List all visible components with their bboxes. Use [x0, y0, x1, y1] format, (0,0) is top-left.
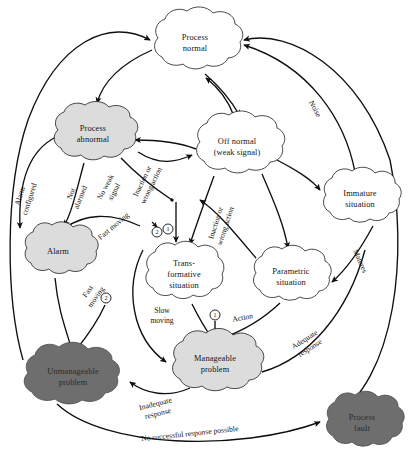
label-transformative-line2: formative: [167, 270, 201, 279]
edge-label-slow-moving-l1: Slow: [154, 306, 170, 315]
label-process-fault-line1: Process: [349, 413, 375, 422]
label-manageable-line1: Manageable: [194, 354, 236, 363]
node-alarm[interactable]: Alarm: [25, 222, 98, 274]
edge-label-inaction-wrong-action-2: Inaction or wrong action: [205, 202, 235, 246]
edge-alarm-to-unmanageable: [55, 278, 72, 350]
label-process-normal-line1: Process: [182, 33, 208, 42]
edge-outer-right-to-normal: [244, 38, 398, 420]
label-transformative-line1: Trans-: [173, 259, 195, 268]
label-unmanageable-line2: problem: [59, 378, 88, 387]
node-unmanageable-problem[interactable]: Unmanageable problem: [24, 342, 119, 404]
node-process-abnormal[interactable]: Process abnormal: [54, 101, 138, 159]
node-immature-situation[interactable]: Immature situation: [324, 167, 402, 222]
edge-label-alarm-configured: Alarm configured: [10, 179, 38, 216]
label-manageable-line2: problem: [201, 365, 230, 374]
label-parametric-line2: situation: [276, 278, 306, 287]
node-process-normal[interactable]: Process normal: [155, 7, 243, 69]
edge-label-not-alarmed: Not alarmed: [62, 180, 89, 210]
process-state-cloud-diagram: Process normal Process abnormal Off norm…: [0, 0, 413, 465]
label-process-abnormal-line1: Process: [80, 124, 106, 133]
label-immature-line2: situation: [345, 200, 375, 209]
marker-1-top: 1: [163, 224, 173, 234]
label-process-abnormal-line2: abnormal: [77, 135, 110, 144]
edge-label-action: Action: [232, 311, 254, 323]
edge-label-no-weak-signal: No weak signal: [95, 173, 125, 206]
label-off-normal-line2: (weak signal): [214, 148, 261, 157]
edge-offnormal-to-abnormal: [135, 140, 196, 149]
node-parametric-situation[interactable]: Parametric situation: [254, 245, 332, 300]
edge-manageable-to-unmanageable: [130, 382, 190, 394]
marker-1-top-label: 1: [167, 226, 170, 232]
edge-label-inaction-wrong-action-1: Inaction or wrong action: [129, 161, 164, 205]
marker-1-mid: 1: [210, 310, 220, 320]
edge-normal-to-abnormal: [97, 50, 152, 103]
edge-offnormal-to-normal: [206, 78, 234, 116]
edge-label-slow-moving-l2: moving: [150, 316, 173, 325]
marker-1-mid-label: 1: [214, 312, 217, 318]
edge-abnormal-to-offnormal: [138, 152, 192, 161]
edge-label-matures-l1: Matures: [351, 248, 369, 274]
edge-label-fast-moving-alarm: Fast moving: [77, 279, 106, 309]
label-alarm: Alarm: [47, 247, 69, 256]
label-parametric-line1: Parametric: [272, 267, 309, 276]
edge-label-matures: Matures: [351, 248, 369, 274]
edge-label-adequate-response: Adequate response: [290, 328, 325, 360]
marker-2-top-label: 2: [156, 229, 159, 235]
edge-label-noise-l1: Noise: [307, 99, 324, 119]
node-off-normal[interactable]: Off normal (weak signal): [197, 111, 285, 173]
edge-label-slow-moving: Slow moving: [150, 306, 173, 325]
edge-label-noise: Noise: [307, 99, 324, 119]
marker-2-top: 2: [152, 227, 162, 237]
label-process-fault-line2: fault: [354, 424, 370, 433]
edge-label-fast-moving-top-l1: Fast moving: [96, 210, 131, 241]
edge-offnormal-to-immature: [277, 160, 320, 190]
edge-offnormal-to-parametric: [262, 174, 288, 248]
label-process-normal-line2: normal: [183, 44, 208, 53]
edge-label-fast-moving-top: Fast moving: [96, 210, 131, 241]
node-transformative-situation[interactable]: Trans- formative situation: [146, 241, 224, 298]
edge-label-action-l1: Action: [232, 311, 254, 323]
label-unmanageable-line1: Unmanageable: [47, 367, 99, 376]
edge-label-inadequate-response: Inadequate response: [138, 395, 176, 422]
edge-markers-down: [152, 222, 157, 227]
label-immature-line1: Immature: [343, 189, 377, 198]
node-manageable-problem[interactable]: Manageable problem: [173, 328, 264, 390]
label-transformative-line3: situation: [169, 281, 199, 290]
node-process-fault[interactable]: Process fault: [327, 391, 405, 446]
label-off-normal-line1: Off normal: [218, 137, 257, 146]
marker-2-alarm-label: 2: [105, 295, 108, 301]
